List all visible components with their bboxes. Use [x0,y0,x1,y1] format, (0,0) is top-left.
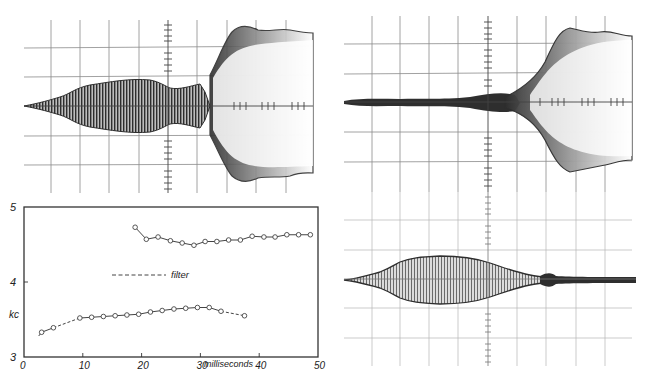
scope-trace [344,93,520,112]
legend: filter [112,269,190,280]
data-point [273,235,278,240]
plot-frame [24,207,318,357]
data-point [250,234,255,239]
scope-top-left [24,20,313,193]
x-tick-label: 40 [255,360,267,371]
data-point [207,305,212,310]
data-point [172,307,177,312]
data-point [168,238,173,243]
data-point [78,316,83,321]
data-point [183,306,188,311]
y-tick-label: 5 [10,201,17,213]
x-tick-label: 20 [137,360,150,371]
scope-center-axis [344,192,636,366]
series-dashed-segment [221,311,245,316]
scope-trace [540,273,636,286]
data-point [160,308,165,313]
data-point [262,235,267,240]
data-point [308,232,313,237]
data-point [195,305,200,310]
series-layer [39,225,313,336]
figure-canvas: 01020304050345 kc milliseconds filter [0,0,648,383]
data-point [144,237,149,242]
data-point [125,313,130,318]
data-point [296,232,301,237]
scope-spindle [344,256,552,304]
data-point [156,235,161,240]
data-point [242,313,247,318]
frequency-chart: 01020304050345 kc milliseconds filter [9,201,326,371]
data-point [285,232,290,237]
scope-top-right [344,16,632,192]
data-point [133,225,138,230]
data-point [180,241,185,246]
data-point [113,313,118,318]
data-point [215,239,220,244]
data-point [39,330,44,335]
series-dashed-segment [53,318,79,328]
data-point [101,314,106,319]
axis-tick-labels: 01020304050345 [10,201,326,371]
y-axis-label: kc [9,309,19,320]
x-tick-label: 0 [20,360,26,371]
y-tick-label: 4 [10,276,16,288]
series-lower [39,305,246,334]
data-point [51,325,56,330]
legend-label-filter: filter [171,269,190,280]
y-tick-label: 3 [10,351,17,363]
data-point [192,243,197,248]
series-upper [133,225,313,248]
data-point [238,238,243,243]
data-point [219,309,224,314]
data-point [148,310,153,315]
scope-bottom-right [344,192,636,366]
data-point [203,239,208,244]
x-tick-label: 10 [79,360,91,371]
axis-ticks [24,282,259,357]
data-point [226,238,231,243]
x-tick-label: 50 [314,360,326,371]
data-point [136,312,141,317]
x-axis-label: milliseconds [204,359,254,369]
data-point [89,315,94,320]
